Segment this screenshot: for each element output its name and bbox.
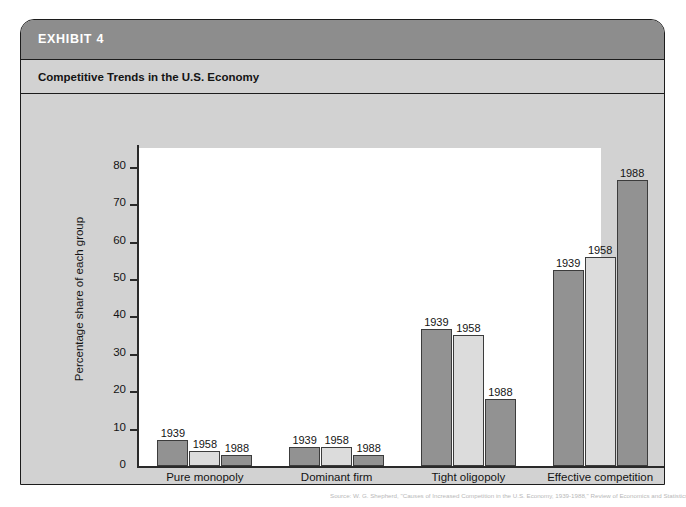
y-tick: 0 bbox=[99, 466, 137, 467]
exhibit-panel: EXHIBIT 4 Competitive Trends in the U.S.… bbox=[20, 19, 665, 485]
chart-body: Percentage share of each group 010203040… bbox=[21, 95, 664, 484]
y-tick-label: 30 bbox=[113, 346, 126, 358]
y-tick-label: 20 bbox=[113, 383, 126, 395]
y-tick: 20 bbox=[99, 391, 137, 392]
bar bbox=[321, 447, 352, 466]
bar bbox=[353, 455, 384, 466]
y-tick: 80 bbox=[99, 167, 137, 168]
bar-year-label: 1939 bbox=[549, 257, 588, 269]
x-category-label: Effective competition bbox=[534, 471, 664, 483]
y-tick-label: 50 bbox=[113, 271, 126, 283]
y-tick: 40 bbox=[99, 316, 137, 317]
y-tick: 60 bbox=[99, 242, 137, 243]
x-category-label: Dominant firm bbox=[271, 471, 403, 483]
bar bbox=[485, 399, 516, 466]
bar bbox=[553, 270, 584, 466]
x-axis-line bbox=[137, 466, 664, 468]
bar-year-label: 1988 bbox=[217, 442, 256, 454]
bar bbox=[585, 257, 616, 467]
bar bbox=[453, 335, 484, 466]
y-tick-label: 0 bbox=[120, 458, 126, 470]
exhibit-number-label: EXHIBIT 4 bbox=[38, 32, 104, 46]
bar bbox=[617, 180, 648, 466]
y-tick: 10 bbox=[99, 429, 137, 430]
y-tick-label: 10 bbox=[113, 421, 126, 433]
y-tick: 70 bbox=[99, 204, 137, 205]
bar bbox=[189, 451, 220, 466]
y-tick-mark bbox=[130, 279, 137, 281]
bars-layer: 1939195819881939195819881939195819881939… bbox=[139, 148, 664, 466]
y-tick-label: 70 bbox=[113, 196, 126, 208]
y-tick-mark bbox=[130, 429, 137, 431]
y-tick-mark bbox=[130, 316, 137, 318]
x-category-label: Tight oligopoly bbox=[403, 471, 535, 483]
source-caption: Source: W. G. Shepherd, "Causes of Incre… bbox=[330, 492, 686, 500]
bar bbox=[289, 447, 320, 466]
exhibit-subtitle-bar: Competitive Trends in the U.S. Economy bbox=[21, 61, 664, 94]
y-axis-title: Percentage share of each group bbox=[73, 184, 85, 414]
bar-year-label: 1958 bbox=[581, 244, 620, 256]
bar-year-label: 1958 bbox=[449, 322, 488, 334]
y-tick-mark bbox=[130, 204, 137, 206]
y-tick-mark bbox=[130, 391, 137, 393]
y-tick: 50 bbox=[99, 279, 137, 280]
y-tick-mark bbox=[130, 167, 137, 169]
y-tick-mark bbox=[130, 354, 137, 356]
x-category-label: Pure monopoly bbox=[139, 471, 271, 483]
exhibit-header-band: EXHIBIT 4 bbox=[21, 20, 664, 60]
y-tick: 30 bbox=[99, 354, 137, 355]
y-tick-label: 80 bbox=[113, 159, 126, 171]
bar bbox=[157, 440, 188, 466]
y-tick-label: 40 bbox=[113, 308, 126, 320]
y-tick-mark bbox=[130, 242, 137, 244]
bar bbox=[221, 455, 252, 466]
bar-year-label: 1939 bbox=[153, 427, 192, 439]
bar bbox=[421, 329, 452, 466]
exhibit-title: Competitive Trends in the U.S. Economy bbox=[38, 71, 259, 83]
bar-year-label: 1988 bbox=[613, 167, 652, 179]
y-tick-label: 60 bbox=[113, 234, 126, 246]
bar-year-label: 1988 bbox=[481, 386, 520, 398]
bar-year-label: 1988 bbox=[349, 442, 388, 454]
